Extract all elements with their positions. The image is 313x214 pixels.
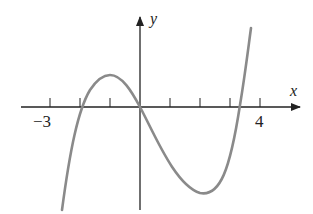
tick-label-4: 4	[255, 112, 264, 132]
plot-area	[0, 0, 313, 214]
graph: y x −3 4	[0, 0, 313, 214]
cubic-curve	[62, 28, 251, 210]
y-axis-label: y	[150, 10, 157, 28]
tick-label-neg3: −3	[33, 112, 51, 132]
x-axis-label: x	[290, 82, 297, 100]
